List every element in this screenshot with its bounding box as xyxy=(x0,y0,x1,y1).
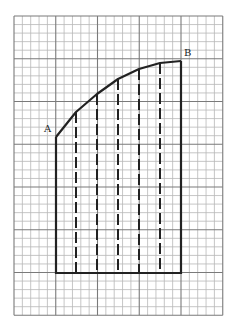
grid-area-diagram: A B xyxy=(0,0,234,330)
diagram-canvas: A B xyxy=(0,0,234,330)
graph-paper-grid xyxy=(14,16,223,315)
point-a-label: A xyxy=(43,123,52,134)
point-b-label: B xyxy=(184,47,191,58)
